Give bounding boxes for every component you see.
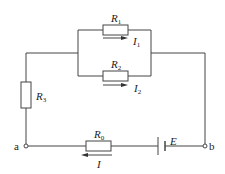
arrowhead-right-icon (121, 83, 128, 87)
label-r1: R1 (110, 12, 122, 26)
resistor-r0 (86, 141, 111, 151)
label-i: I (96, 158, 102, 170)
arrowhead-right-icon (121, 36, 128, 40)
label-r0: R0 (93, 128, 105, 142)
node-a-label: a (14, 140, 19, 152)
label-i1: I1 (132, 35, 141, 49)
node-b-terminal (203, 144, 207, 148)
resistor-r3 (21, 82, 31, 108)
arrowhead-left-icon (81, 153, 88, 157)
node-a-terminal (24, 144, 28, 148)
circuit-diagram: R1 I1 R2 I2 R3 R0 E I a b (0, 0, 225, 174)
label-e: E (169, 135, 177, 147)
label-r3: R3 (35, 90, 47, 104)
resistor-r1 (103, 25, 128, 35)
label-i2: I2 (133, 82, 142, 96)
node-b-label: b (209, 140, 215, 152)
resistor-r2 (103, 71, 128, 81)
label-r2: R2 (110, 58, 122, 72)
